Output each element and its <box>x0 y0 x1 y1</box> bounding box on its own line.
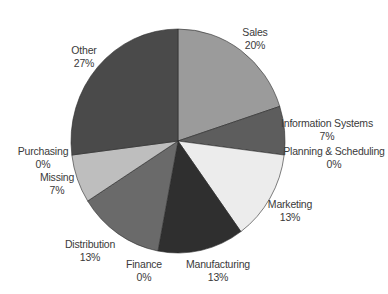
slice-label: Manufacturing13% <box>186 258 250 284</box>
slice-label-name: Planning & Scheduling <box>283 145 384 158</box>
slice-label: Finance0% <box>126 258 162 284</box>
slice-label-name: Marketing <box>268 198 312 211</box>
slice-label-percent: 13% <box>268 211 312 224</box>
slice-label-percent: 20% <box>242 39 267 52</box>
slice-label-name: Information Systems <box>281 117 373 130</box>
slice-label-name: Finance <box>126 258 162 271</box>
slice-label: Distribution13% <box>65 238 115 264</box>
slice-label-name: Purchasing <box>18 145 69 158</box>
slice-label-name: Sales <box>242 26 267 39</box>
slice-label-name: Distribution <box>65 238 115 251</box>
slice-label-name: Other <box>71 44 96 57</box>
slice-label: Information Systems7% <box>281 117 373 143</box>
slice-label: Sales20% <box>242 26 267 52</box>
slice-label-percent: 13% <box>65 251 115 264</box>
slice-label: Marketing13% <box>268 198 312 224</box>
slice-label-percent: 0% <box>283 158 384 171</box>
slice-label: Missing7% <box>40 171 74 197</box>
slice-label-percent: 13% <box>186 271 250 284</box>
slice-label-percent: 0% <box>18 158 69 171</box>
slice-label-name: Missing <box>40 171 74 184</box>
slice-label-percent: 7% <box>281 130 373 143</box>
slice-label-percent: 0% <box>126 271 162 284</box>
slice-label: Planning & Scheduling0% <box>283 145 384 171</box>
slice-label-percent: 7% <box>40 184 74 197</box>
slice-label: Purchasing0% <box>18 145 69 171</box>
slice-label-name: Manufacturing <box>186 258 250 271</box>
slice-label: Other27% <box>71 44 96 70</box>
slice-label-percent: 27% <box>71 57 96 70</box>
